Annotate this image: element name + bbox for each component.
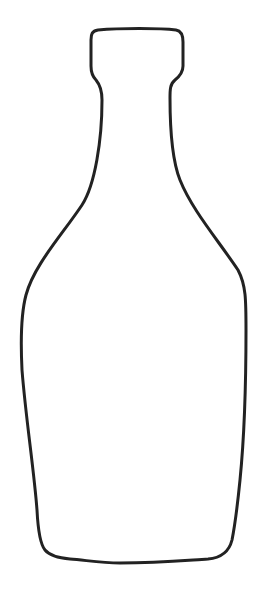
- drawing-canvas: [0, 0, 260, 604]
- bottle-outline-path: [21, 29, 246, 564]
- bottle-outline-icon: [0, 0, 260, 604]
